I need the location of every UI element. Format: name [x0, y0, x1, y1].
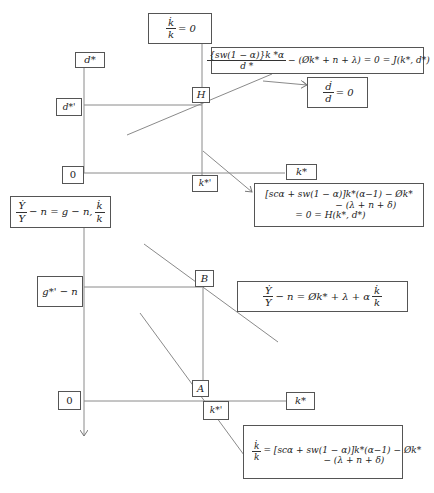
- point-B-label: B: [195, 270, 214, 287]
- A-equation-box: k̇k = [scα + sw(1 − α)]k*(α−1) − Øk* − (…: [243, 425, 403, 479]
- lower-k-star-label: k*: [286, 392, 315, 410]
- A-eq-line1: = [scα + sw(1 − α)]k*(α−1) − Øk*: [263, 445, 421, 455]
- kdot2-den: k: [95, 213, 105, 225]
- kdot-den: k: [166, 29, 176, 41]
- kdot-zero-label: k̇k = 0: [148, 13, 212, 44]
- A-eq-line2: − (λ + n + δ): [263, 455, 384, 465]
- ddot-den: d: [323, 93, 333, 105]
- ydot-den: Y: [16, 213, 27, 225]
- J-equation-box: {sw(1 − α)}k *αd * − (Øk* + n + λ) = 0 =…: [211, 47, 424, 74]
- kdot-num: k̇: [166, 17, 176, 30]
- B-equation-box: ẎY − n = Øk* + λ + α k̇k: [237, 281, 408, 312]
- J-den: d *: [238, 61, 255, 71]
- B-kdot-den: k: [372, 297, 382, 309]
- lower-k-level-label: k*': [203, 401, 229, 420]
- J-rhs: − (Øk* + n + λ) = 0 = J(k*, d*): [288, 55, 430, 65]
- point-A-label: A: [192, 380, 209, 397]
- H-equation-box: [scα + sw(1 − α)]k*(α−1) − Øk* − (λ + n …: [254, 183, 424, 227]
- H-eq-line2: − (λ + n + δ): [265, 200, 396, 210]
- ydot-mid: − n = g − n,: [29, 206, 93, 218]
- kdot2-num: k̇: [95, 200, 105, 213]
- J-num: {sw(1 − α)}k *α: [207, 50, 286, 61]
- B-eq-mid: − n = Øk* + λ + α: [275, 291, 370, 303]
- B-kdot-num: k̇: [372, 285, 382, 298]
- g-level-label: g*' − n: [37, 276, 83, 307]
- B-ydot-den: Y: [263, 297, 274, 309]
- kdot-rhs: = 0: [178, 23, 196, 35]
- A-kdot-den: k: [252, 452, 261, 462]
- d-level-label: d*': [56, 98, 82, 116]
- B-ydot-num: Ẏ: [263, 285, 274, 298]
- upper-k-star-label: k*: [286, 164, 317, 180]
- ddot-rhs: = 0: [336, 87, 354, 99]
- arrow-to-ddot: [263, 81, 307, 85]
- lower-y-axis-equation: ẎY − n = g − n, k̇k: [10, 196, 111, 228]
- A-kdot-num: k̇: [252, 441, 261, 452]
- d-star-label: d*: [75, 52, 105, 68]
- H-eq-line1: [scα + sw(1 − α)]k*(α−1) − Øk*: [265, 189, 412, 199]
- ddot-num: ḋ: [323, 81, 333, 94]
- upper-origin-label: 0: [62, 166, 84, 184]
- lower-origin-label: 0: [58, 391, 81, 410]
- ydot-num: Ẏ: [16, 200, 27, 213]
- H-eq-line3: = 0 = H(k*, d*): [265, 210, 365, 220]
- point-H-label: H: [192, 87, 210, 103]
- ddot-zero-label: ḋd = 0: [307, 77, 368, 108]
- upper-k-level-label: k*': [192, 175, 218, 192]
